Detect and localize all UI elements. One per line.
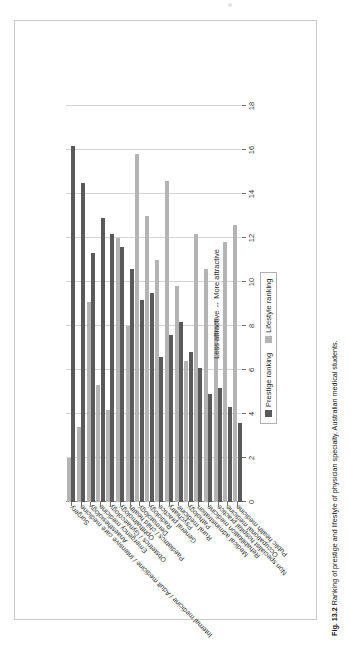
chart-area: SurgeryInternal medicine / Adult medicin… bbox=[14, 20, 317, 620]
bar-prestige bbox=[71, 146, 75, 502]
value-axis-tick-label: 12 bbox=[247, 234, 256, 242]
bar-prestige bbox=[159, 357, 163, 502]
category-axis-tick bbox=[188, 502, 189, 506]
chart-legend: Prestige rankingLifestyle ranking bbox=[260, 272, 277, 424]
category-axis-tick bbox=[90, 502, 91, 506]
bar-group bbox=[174, 106, 184, 502]
bar-prestige bbox=[169, 335, 173, 502]
value-axis-tick bbox=[242, 237, 246, 238]
bar-group bbox=[232, 106, 242, 502]
value-axis-tick-label: 18 bbox=[247, 102, 256, 110]
category-axis-tick bbox=[198, 502, 199, 506]
bar-prestige bbox=[140, 300, 144, 502]
category-axis-tick bbox=[208, 502, 209, 506]
bar-group bbox=[125, 106, 135, 502]
bar-group bbox=[193, 106, 203, 502]
axis-title-right: More attractive bbox=[212, 249, 221, 299]
legend-swatch-icon bbox=[265, 410, 272, 417]
category-axis-tick bbox=[237, 502, 238, 506]
bar-group bbox=[105, 106, 115, 502]
value-axis-tick-label: 0 bbox=[247, 500, 256, 504]
value-axis-tick bbox=[242, 149, 246, 150]
axis-title-arrow-icon: ↔ bbox=[212, 299, 221, 311]
bar-prestige bbox=[189, 352, 193, 502]
value-axis-tick-label: 16 bbox=[247, 146, 256, 154]
legend-label: Lifestyle ranking bbox=[264, 279, 273, 333]
legend-item: Prestige ranking bbox=[264, 353, 273, 417]
category-axis-tick bbox=[139, 502, 140, 506]
value-axis-tick bbox=[242, 193, 246, 194]
category-axis-labels: SurgeryInternal medicine / Adult medicin… bbox=[66, 502, 242, 620]
value-axis-tick-label: 8 bbox=[247, 324, 256, 328]
value-axis-tick bbox=[242, 325, 246, 326]
value-axis-tick-label: 14 bbox=[247, 190, 256, 198]
value-axis-tick bbox=[242, 369, 246, 370]
bar-prestige bbox=[238, 423, 242, 502]
category-axis-tick bbox=[110, 502, 111, 506]
bar-prestige bbox=[179, 322, 183, 502]
value-axis-tick bbox=[242, 105, 246, 106]
bar-prestige bbox=[130, 269, 134, 502]
value-axis-tick bbox=[242, 413, 246, 414]
bar-group bbox=[66, 106, 76, 502]
bar-group bbox=[164, 106, 174, 502]
value-axis-tick bbox=[242, 281, 246, 282]
rotated-chart-stage: SurgeryInternal medicine / Adult medicin… bbox=[14, 20, 317, 620]
value-axis-tick-label: 6 bbox=[247, 368, 256, 372]
category-axis-tick bbox=[71, 502, 72, 506]
bar-group bbox=[144, 106, 154, 502]
category-axis-tick bbox=[169, 502, 170, 506]
bar-prestige bbox=[81, 183, 85, 502]
legend-item: Lifestyle ranking bbox=[264, 279, 273, 343]
bar-prestige bbox=[110, 234, 114, 502]
scan-artifact bbox=[228, 3, 232, 7]
bar-group bbox=[115, 106, 125, 502]
value-axis-tick bbox=[242, 457, 246, 458]
bar-group bbox=[222, 106, 232, 502]
figure-caption: Fig. 13.2 Ranking of prestige and lifest… bbox=[330, 26, 339, 636]
bar-prestige bbox=[120, 247, 124, 502]
bar-group bbox=[154, 106, 164, 502]
bar-prestige bbox=[198, 368, 202, 502]
category-axis-tick bbox=[130, 502, 131, 506]
category-axis-tick bbox=[149, 502, 150, 506]
category-axis-tick bbox=[178, 502, 179, 506]
bar-group bbox=[86, 106, 96, 502]
category-axis-tick bbox=[100, 502, 101, 506]
value-axis-tick bbox=[242, 501, 246, 502]
value-axis-title: Less attractive ↔ More attractive bbox=[212, 106, 221, 502]
bar-group bbox=[95, 106, 105, 502]
legend-label: Prestige ranking bbox=[264, 353, 273, 407]
value-axis-tick-label: 4 bbox=[247, 412, 256, 416]
bar-prestige bbox=[101, 218, 105, 502]
category-axis-tick bbox=[227, 502, 228, 506]
bar-prestige bbox=[150, 293, 154, 502]
bar-prestige bbox=[91, 253, 95, 502]
caption-text: Ranking of prestige and lifestyle of phy… bbox=[330, 340, 339, 605]
bar-group bbox=[183, 106, 193, 502]
value-axis-tick-label: 2 bbox=[247, 456, 256, 460]
bar-group bbox=[76, 106, 86, 502]
axis-title-left: Less attractive bbox=[212, 310, 221, 358]
bar-group bbox=[134, 106, 144, 502]
caption-number: Fig. 13.2 bbox=[330, 607, 339, 636]
category-axis-tick bbox=[120, 502, 121, 506]
bar-prestige bbox=[228, 407, 232, 502]
legend-swatch-icon bbox=[265, 336, 272, 343]
category-axis-tick bbox=[81, 502, 82, 506]
category-axis-tick bbox=[159, 502, 160, 506]
value-axis-tick-label: 10 bbox=[247, 278, 256, 286]
category-axis-tick bbox=[218, 502, 219, 506]
figure-page: SurgeryInternal medicine / Adult medicin… bbox=[0, 0, 351, 656]
